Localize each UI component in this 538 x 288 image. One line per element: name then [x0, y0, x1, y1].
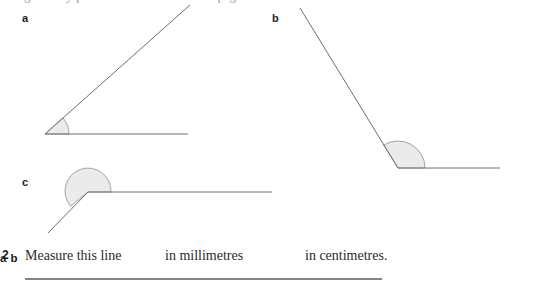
figure-b-label: b [272, 13, 279, 24]
figure-a-angle-arc [45, 118, 69, 134]
question-row: 2 Measure this line a in millimetres b i… [0, 248, 538, 268]
figure-a [45, 5, 190, 134]
angle-figures-svg [0, 0, 538, 288]
question-part-b-label: b [10, 252, 17, 264]
figure-c-angle-arc [65, 168, 111, 206]
figure-b [300, 8, 500, 168]
figure-c [48, 168, 272, 233]
question-part-a-text: in millimetres [165, 248, 243, 264]
figure-c-label: c [22, 177, 28, 188]
worksheet-page: geometry problems continued on the page … [0, 0, 538, 288]
figure-a-inclined-ray [45, 5, 190, 134]
question-stem: Measure this line [25, 248, 121, 264]
figure-b-inclined-ray [300, 8, 398, 168]
figure-a-label: a [22, 13, 28, 24]
question-number: 2 [2, 248, 9, 262]
question-part-b-text: in centimetres. [305, 248, 387, 264]
